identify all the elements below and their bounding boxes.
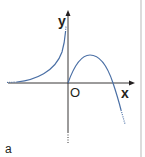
left-curve (17, 32, 66, 82)
origin-label: O (70, 85, 80, 100)
x-axis-arrow-icon (129, 81, 135, 86)
y-axis-label: y (58, 13, 66, 29)
right-curve (68, 55, 121, 110)
left-curve-dotted-start (7, 82, 17, 83)
x-axis-label: x (121, 85, 129, 101)
divider-line (140, 0, 142, 157)
right-curve-dotted-end (121, 110, 125, 124)
y-axis-arrow-icon (66, 10, 71, 16)
graph-diagram (0, 0, 145, 157)
panel-label: a (5, 142, 12, 156)
